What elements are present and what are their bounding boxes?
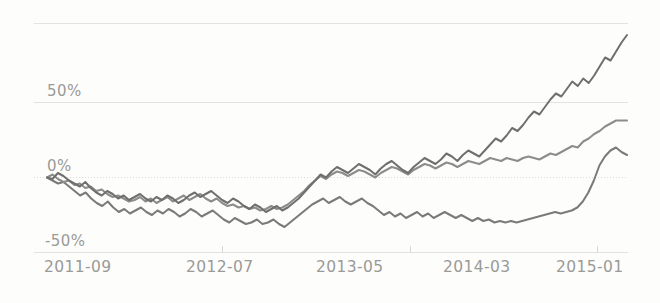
x-tick-label-2011-09: 2011-09	[44, 258, 112, 276]
x-tick-label-2014-03: 2014-03	[443, 258, 511, 276]
y-tick-label-50: 50%	[47, 82, 82, 100]
x-tick-label-2015-01: 2015-01	[556, 258, 624, 276]
chart-container: 50% 0% -50% 2011-09 2012-07 2013-05 2014…	[0, 0, 660, 303]
x-tick-label-2013-05: 2013-05	[316, 258, 384, 276]
y-tick-label-0: 0%	[47, 157, 72, 175]
x-axis-ticks	[223, 246, 598, 253]
x-tick-label-2012-07: 2012-07	[186, 258, 254, 276]
y-tick-label-minus50: -50%	[45, 232, 85, 250]
gridlines	[34, 24, 628, 253]
series-group	[47, 35, 627, 227]
series-line-1	[47, 35, 627, 212]
